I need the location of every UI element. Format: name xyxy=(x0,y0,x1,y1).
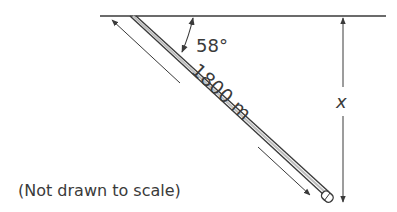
well-diagram: 58° 1800 m x (Not drawn to scale) xyxy=(0,0,397,212)
not-to-scale-note: (Not drawn to scale) xyxy=(18,181,181,200)
length-label: 1800 m xyxy=(187,59,256,124)
depth-label: x xyxy=(335,91,347,112)
angle-arc-arrow xyxy=(182,18,193,52)
angle-label: 58° xyxy=(196,35,228,56)
pipe-end-cap-icon xyxy=(320,189,335,204)
